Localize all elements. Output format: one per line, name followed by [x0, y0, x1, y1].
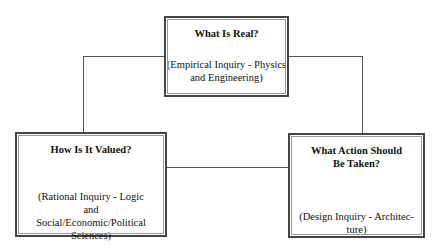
connector-top-to-left-horizontal — [83, 56, 165, 57]
node-subtitle: (Rational Inquiry - Logic and Social/Eco… — [17, 190, 165, 242]
node-subtitle: (Design Inquiry - Architec-ture) — [290, 210, 423, 236]
node-title: What Action Should Be Taken? — [290, 144, 423, 170]
node-how-is-it-valued: How Is It Valued? (Rational Inquiry - Lo… — [15, 132, 167, 237]
connector-top-to-right-horizontal — [288, 56, 363, 57]
node-subtitle: (Empirical Inquiry - Physics and Enginee… — [166, 58, 287, 84]
node-what-action-should-be-taken: What Action Should Be Taken? (Design Inq… — [288, 133, 425, 238]
connector-top-to-right-vertical — [362, 56, 363, 134]
node-what-is-real: What Is Real? (Empirical Inquiry - Physi… — [164, 16, 289, 97]
connector-top-to-left-vertical — [83, 56, 84, 133]
connector-left-to-right — [166, 167, 289, 168]
node-title: How Is It Valued? — [17, 143, 165, 156]
node-title: What Is Real? — [166, 27, 287, 40]
